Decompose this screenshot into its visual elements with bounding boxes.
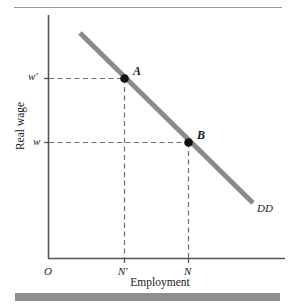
data-point-a-marker [120, 74, 129, 83]
data-point-a-label: A [133, 65, 141, 77]
bottom-gray-bar [15, 293, 280, 301]
data-point-b-marker [184, 138, 193, 147]
y-tick-label-w-prime: w′ [28, 71, 38, 82]
figure-container: w′ w O N′ N A B DD Real wage Employment [0, 0, 296, 308]
demand-curve-dd [80, 33, 253, 203]
demand-curve-label: DD [257, 203, 273, 214]
diagram-canvas [0, 0, 296, 308]
y-tick-label-w: w [33, 136, 40, 147]
x-axis-title: Employment [110, 276, 210, 288]
x-tick-label-origin: O [44, 266, 52, 277]
data-point-b-label: B [197, 129, 205, 141]
y-axis-title: Real wage [14, 86, 26, 166]
